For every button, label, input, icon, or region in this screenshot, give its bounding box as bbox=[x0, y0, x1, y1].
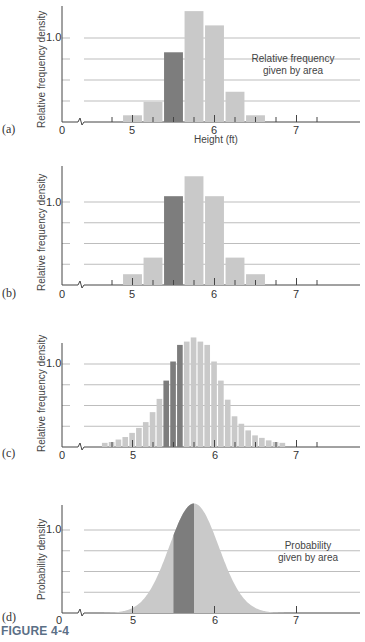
y-tick-label: 1.0 bbox=[46, 357, 61, 369]
y-tick-label: 1.0 bbox=[46, 523, 61, 535]
histogram-b bbox=[0, 160, 365, 305]
y-tick-label: 1.0 bbox=[46, 196, 61, 208]
panel-label: (b) bbox=[2, 286, 16, 301]
x-tick-label: 7 bbox=[293, 288, 299, 300]
panel-label: (c) bbox=[2, 446, 15, 461]
annotation: Relative frequency given by area bbox=[243, 53, 343, 77]
annotation: Probability given by area bbox=[268, 540, 348, 564]
y-tick-label: 1.0 bbox=[46, 31, 61, 43]
x-tick-label: 6 bbox=[212, 614, 218, 626]
panel-d: (d) Probability density 1.0 0 5 6 7 Prob… bbox=[0, 460, 365, 625]
x-tick-label: 6 bbox=[211, 288, 217, 300]
panel-a: (a) Relative frequency density 1.0 0 5 6… bbox=[0, 0, 365, 145]
histogram-c bbox=[0, 310, 365, 460]
figure-caption: FIGURE 4-4 bbox=[1, 624, 69, 638]
x-tick-label: 0 bbox=[59, 288, 65, 300]
x-tick-label: 0 bbox=[59, 124, 65, 136]
panel-label: (d) bbox=[2, 610, 16, 625]
y-axis-label: Relative frequency density bbox=[36, 335, 47, 452]
x-axis-label: Height (ft) bbox=[194, 134, 238, 145]
x-tick-label: 5 bbox=[130, 614, 136, 626]
panel-c: (c) Relative frequency density 1.0 0 5 6… bbox=[0, 310, 365, 460]
panel-label: (a) bbox=[2, 122, 15, 137]
x-tick-label: 7 bbox=[293, 614, 299, 626]
panel-b: (b) Relative frequency density 1.0 0 5 6… bbox=[0, 160, 365, 305]
x-tick-label: 5 bbox=[129, 288, 135, 300]
x-tick-label: 7 bbox=[293, 124, 299, 136]
y-axis-label: Relative frequency density bbox=[36, 11, 47, 128]
x-tick-label: 5 bbox=[129, 124, 135, 136]
y-axis-label: Relative frequency density bbox=[36, 174, 47, 291]
